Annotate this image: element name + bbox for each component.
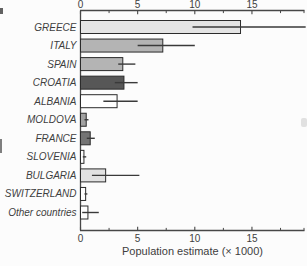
category-label-france: FRANCE — [35, 133, 76, 144]
bottom-tick-label-5: 5 — [135, 233, 141, 244]
category-label-moldova: MOLDOVA — [27, 114, 77, 125]
top-tick-label-5: 5 — [135, 0, 141, 10]
category-label-croatia: CROATIA — [33, 77, 77, 88]
category-label-italy: ITALY — [50, 40, 77, 51]
category-label-spain: SPAIN — [47, 59, 77, 70]
category-label-other-countries: Other countries — [8, 207, 76, 218]
bottom-tick-label-0: 0 — [78, 233, 84, 244]
category-label-slovenia: SLOVENIA — [26, 151, 76, 162]
category-label-greece: GREECE — [34, 22, 77, 33]
chart-canvas: 005510101515GREECEITALYSPAINCROATIAALBAN… — [0, 0, 307, 266]
category-label-albania: ALBANIA — [33, 96, 77, 107]
category-label-switzerland: SWITZERLAND — [5, 188, 77, 199]
top-tick-label-10: 10 — [189, 0, 201, 10]
category-label-bulgaria: BULGARIA — [26, 170, 77, 181]
x-axis-label: Population estimate (× 1000) — [122, 245, 263, 257]
bar-spain — [81, 58, 123, 71]
bottom-tick-label-15: 15 — [246, 233, 258, 244]
bottom-tick-label-10: 10 — [189, 233, 201, 244]
top-tick-label-15: 15 — [246, 0, 258, 10]
plot-area: 005510101515GREECEITALYSPAINCROATIAALBAN… — [5, 0, 306, 244]
top-tick-label-0: 0 — [78, 0, 84, 10]
population-estimate-bar-chart: 005510101515GREECEITALYSPAINCROATIAALBAN… — [0, 0, 307, 266]
